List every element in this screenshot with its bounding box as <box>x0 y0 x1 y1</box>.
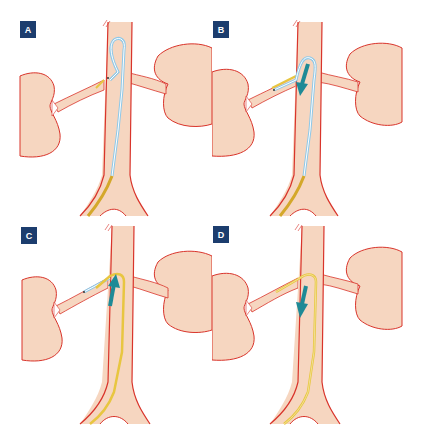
diagram-c <box>0 222 212 445</box>
left-kidney <box>22 277 62 361</box>
panel-a: A <box>0 0 212 218</box>
diagram-b <box>212 0 425 218</box>
panel-d: D <box>212 222 425 445</box>
left-kidney <box>20 73 60 157</box>
left-kidney <box>212 69 254 156</box>
panel-label-c: C <box>21 227 37 244</box>
left-kidney <box>212 273 254 360</box>
panel-label-a: A <box>20 21 36 38</box>
diagram-d <box>212 222 425 445</box>
panel-label-b: B <box>213 21 229 38</box>
panel-b: B <box>212 0 425 218</box>
panel-c: C <box>0 222 212 445</box>
panel-label-d: D <box>213 226 229 243</box>
